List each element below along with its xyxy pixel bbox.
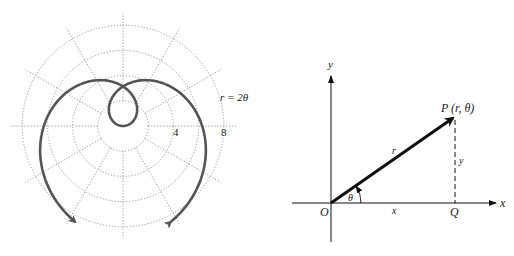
horizontal-leg-label: x — [391, 205, 397, 216]
cartesian-diagram: y x O P (r, θ) Q r θ x y — [292, 58, 506, 242]
polar-plot: 4 8 r = 2θ — [10, 13, 249, 239]
radius-label: r — [392, 145, 396, 156]
equation-label: r = 2θ — [220, 91, 249, 103]
angle-label: θ — [348, 192, 353, 203]
figure: 4 8 r = 2θ y x O P (r, θ) Q r θ x y — [0, 0, 514, 256]
angle-arc — [356, 186, 361, 203]
radius-vector — [331, 118, 453, 203]
radius-label-8: 8 — [221, 126, 227, 138]
x-axis-label: x — [499, 196, 506, 210]
origin-label: O — [320, 205, 329, 219]
y-axis-label: y — [327, 58, 333, 70]
radius-label-4: 4 — [173, 126, 179, 138]
foot-label: Q — [450, 205, 459, 219]
vertical-leg-label: y — [458, 155, 464, 166]
point-label: P (r, θ) — [440, 101, 474, 115]
